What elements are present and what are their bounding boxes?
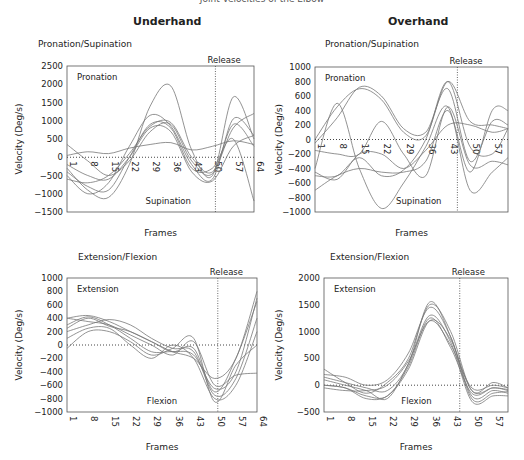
chart-title: Extension/Flexion (330, 252, 409, 262)
y-tick-label: 1500 (298, 300, 320, 310)
chart-title: Pronation/Supination (325, 39, 419, 49)
top-annotation: Extension (334, 284, 376, 294)
x-tick-label: 8 (346, 416, 356, 421)
release-label: Release (207, 55, 240, 65)
release-label: Release (449, 56, 482, 66)
bottom-annotation: Flexion (401, 396, 431, 406)
series-line (315, 81, 508, 140)
x-tick-label: 29 (151, 161, 161, 172)
y-tick-label: −600 (288, 178, 311, 188)
y-tick-label: 800 (47, 286, 63, 296)
x-tick-label: 43 (452, 416, 462, 427)
y-tick-label: −1000 (282, 207, 311, 217)
y-tick-label: 2500 (41, 61, 63, 71)
series-line (67, 125, 254, 182)
series-line (315, 103, 508, 208)
bottom-annotation: Supination (396, 196, 441, 206)
x-axis-label: Frames (144, 228, 177, 238)
x-tick-label: 57 (494, 416, 504, 427)
y-tick-label: 400 (295, 106, 311, 116)
y-tick-label: −1000 (34, 189, 63, 199)
x-tick-label: 64 (258, 416, 268, 427)
x-tick-label: 64 (255, 161, 265, 172)
series-line (324, 320, 508, 400)
y-tick-label: −800 (288, 193, 311, 203)
x-tick-label: 15 (367, 416, 377, 427)
series-line (67, 327, 257, 400)
y-tick-label: 1000 (298, 327, 320, 337)
x-tick-label: 1 (325, 416, 335, 421)
series-line (315, 81, 508, 177)
y-tick-label: 1000 (41, 273, 63, 283)
y-tick-label: 800 (295, 77, 311, 87)
bottom-annotation: Flexion (147, 396, 177, 406)
y-tick-label: −400 (288, 164, 311, 174)
plot-frame (67, 278, 257, 412)
y-tick-label: −200 (40, 353, 63, 363)
chart-title: Pronation/Supination (38, 39, 132, 49)
x-tick-label: 36 (174, 416, 184, 427)
x-tick-label: 36 (431, 416, 441, 427)
y-tick-label: 0 (315, 380, 320, 390)
y-tick-label: 200 (47, 327, 63, 337)
top-annotation: Pronation (77, 72, 117, 82)
y-tick-label: 0 (58, 152, 63, 162)
y-tick-label: −1000 (34, 407, 63, 417)
x-tick-label: 57 (237, 416, 247, 427)
x-axis-label: Frames (400, 442, 433, 452)
y-tick-label: 200 (295, 120, 311, 130)
y-tick-label: 600 (295, 91, 311, 101)
y-tick-label: −600 (40, 380, 63, 390)
y-tick-label: −400 (40, 367, 63, 377)
x-tick-label: 29 (152, 416, 162, 427)
x-tick-label: 22 (130, 161, 140, 172)
charts-canvas: Pronation/Supination25002000150010005000… (0, 0, 524, 460)
y-tick-label: 600 (47, 300, 63, 310)
y-tick-label: −1500 (34, 207, 63, 217)
x-tick-label: 8 (89, 416, 99, 421)
y-axis-label: Velocity (Deg/s) (14, 309, 24, 380)
x-tick-label: 22 (388, 416, 398, 427)
x-tick-label: 36 (172, 161, 182, 172)
y-tick-label: 2000 (41, 79, 63, 89)
y-tick-label: 2000 (298, 273, 320, 283)
release-label: Release (210, 267, 243, 277)
y-tick-label: 500 (47, 134, 63, 144)
x-axis-label: Frames (395, 228, 428, 238)
x-tick-label: 1 (68, 416, 78, 421)
y-tick-label: 1000 (41, 116, 63, 126)
x-tick-label: 8 (338, 144, 348, 149)
y-axis-label: Velocity (Deg/s) (274, 104, 284, 175)
top-annotation: Pronation (325, 73, 365, 83)
y-tick-label: 0 (58, 340, 63, 350)
x-tick-label: 29 (405, 144, 415, 155)
series-line (67, 330, 257, 402)
y-tick-label: −800 (40, 394, 63, 404)
series-line (315, 107, 508, 178)
x-tick-label: 15 (110, 416, 120, 427)
bottom-annotation: Supination (146, 196, 191, 206)
x-tick-label: 22 (382, 144, 392, 155)
x-tick-label: 29 (409, 416, 419, 427)
series-line (67, 291, 257, 378)
x-tick-label: 57 (234, 161, 244, 172)
top-annotation: Extension (77, 284, 119, 294)
y-tick-label: 400 (47, 313, 63, 323)
y-tick-label: 0 (306, 135, 311, 145)
x-tick-label: 50 (216, 416, 226, 427)
y-axis-label: Velocity (Deg/s) (274, 309, 284, 380)
x-tick-label: 22 (131, 416, 141, 427)
y-tick-label: −500 (297, 407, 320, 417)
series-line (324, 321, 508, 391)
x-tick-label: 57 (493, 144, 503, 155)
y-axis-label: Velocity (Deg/s) (14, 103, 24, 174)
y-tick-label: 500 (304, 353, 320, 363)
y-tick-label: 1000 (289, 62, 311, 72)
release-label: Release (452, 267, 485, 277)
y-tick-label: 1500 (41, 98, 63, 108)
y-tick-label: −200 (288, 149, 311, 159)
x-tick-label: 50 (473, 416, 483, 427)
x-tick-label: 43 (195, 416, 205, 427)
chart-title: Extension/Flexion (78, 252, 157, 262)
y-tick-label: −500 (40, 171, 63, 181)
